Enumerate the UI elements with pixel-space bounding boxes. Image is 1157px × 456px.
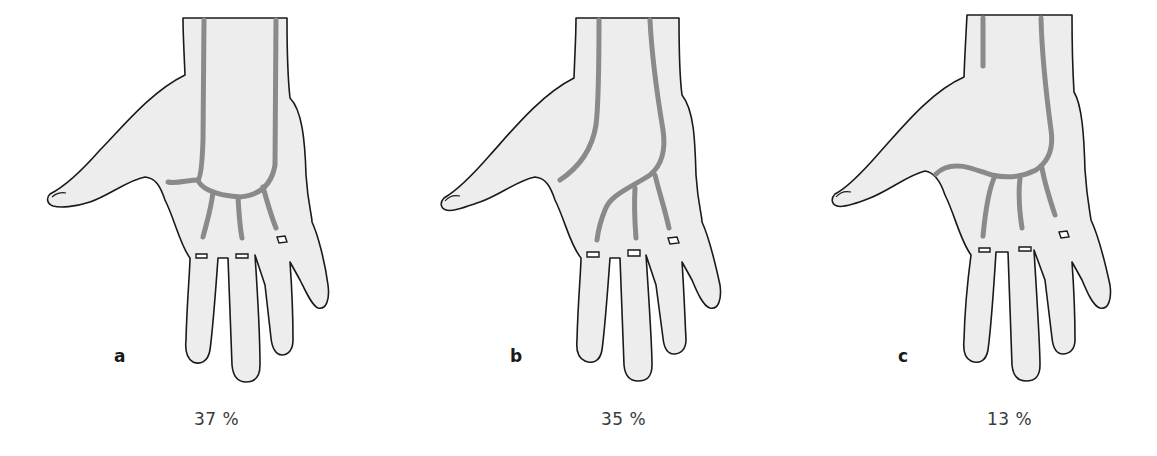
hand-illustration-b <box>390 0 780 456</box>
panel-percent-b: 35 % <box>601 409 646 429</box>
panel-c: c 13 % <box>780 0 1157 456</box>
hand-illustration-c <box>780 0 1157 456</box>
panel-letter-c: c <box>898 346 908 366</box>
panel-b: b 35 % <box>390 0 780 456</box>
panel-a: a 37 % <box>0 0 390 456</box>
panel-letter-b: b <box>510 346 522 366</box>
panel-letter-a: a <box>114 346 125 366</box>
panel-percent-a: 37 % <box>194 409 239 429</box>
hand-illustration-a <box>0 0 390 456</box>
panel-percent-c: 13 % <box>987 409 1032 429</box>
